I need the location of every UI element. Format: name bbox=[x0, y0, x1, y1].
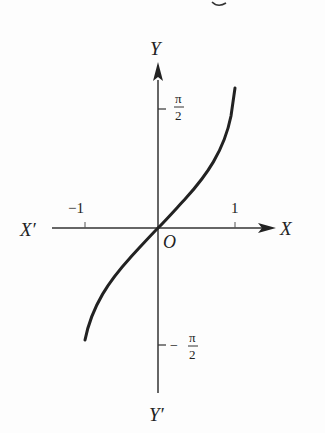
y-axis-arrow-icon bbox=[153, 62, 163, 81]
y-axis-label: Y bbox=[150, 38, 163, 59]
y-axis-neg-label: Y′ bbox=[149, 404, 165, 425]
origin-label: O bbox=[163, 232, 176, 252]
pi-half-numerator: π bbox=[175, 91, 182, 106]
neg-pi-half-numerator: π bbox=[189, 330, 196, 345]
x-axis-neg-label: X′ bbox=[19, 219, 37, 240]
pi-half-denominator: 2 bbox=[175, 108, 182, 123]
arcsin-graph: Y Y′ X X′ O −1 1 π 2 − π 2 bbox=[0, 0, 325, 433]
tick-label-x-neg1: −1 bbox=[68, 200, 84, 216]
arcsin-curve bbox=[85, 88, 235, 340]
neg-pi-half-minus: − bbox=[170, 338, 178, 353]
neg-pi-half-denominator: 2 bbox=[189, 347, 196, 362]
x-axis-label: X bbox=[279, 218, 293, 239]
tick-label-x-1: 1 bbox=[231, 200, 239, 216]
cropped-text-fragment bbox=[212, 2, 226, 5]
